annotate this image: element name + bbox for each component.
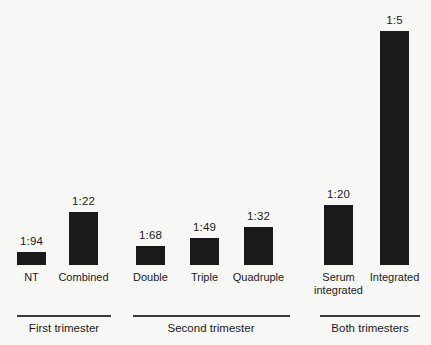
- bar-value-label: 1:94: [0, 235, 72, 247]
- bar-category-label-line: Quadruple: [214, 271, 304, 284]
- group-label: Both trimesters: [300, 322, 431, 334]
- bar-value-label: 1:22: [44, 195, 124, 207]
- bar-value-label: 1:5: [355, 14, 431, 26]
- bar-triple: [190, 238, 219, 265]
- bar-category-label-line: integrated: [294, 284, 384, 297]
- bar-category-label: Quadruple: [214, 271, 304, 284]
- group-separator-rule: [133, 315, 290, 317]
- group-separator-rule: [17, 315, 111, 317]
- bar-value-label: 1:49: [165, 221, 245, 233]
- bar-combined: [69, 212, 98, 265]
- group-label: Second trimester: [141, 322, 281, 334]
- bar-quadruple: [244, 227, 273, 265]
- bar-value-label: 1:20: [299, 188, 379, 200]
- bar-double: [136, 246, 165, 265]
- bar-integrated: [380, 31, 409, 265]
- bar-value-label: 1:32: [219, 210, 299, 222]
- bar-category-label: Integrated: [350, 271, 431, 284]
- group-separator-rule: [320, 315, 420, 317]
- bar-nt: [17, 252, 46, 265]
- bar-category-label-line: Integrated: [350, 271, 431, 284]
- bar-chart: 1:94NT1:22Combined1:68Double1:49Triple1:…: [0, 0, 431, 345]
- bar-serum-integrated: [324, 205, 353, 265]
- group-label: First trimester: [0, 322, 134, 334]
